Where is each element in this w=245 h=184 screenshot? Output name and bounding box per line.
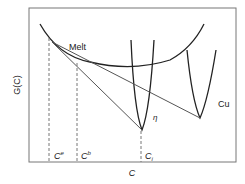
cu-label: Cu [218, 99, 230, 109]
melt-curve [40, 24, 204, 67]
tangent-cu [52, 42, 200, 118]
tangent-eta [52, 42, 142, 130]
cb-label: Cb [81, 150, 92, 161]
melt-label: Melt [69, 42, 87, 52]
ci-label: Ci [145, 151, 154, 162]
free-energy-diagram: Melt η Cu Ce Cb Ci C G(C) [0, 0, 245, 184]
ce-label: Ce [54, 150, 65, 161]
x-axis-label: C [129, 168, 136, 178]
y-axis-label: G(C) [12, 75, 22, 95]
cu-curve [187, 50, 216, 118]
plot-frame [29, 8, 236, 162]
eta-label: η [153, 113, 158, 122]
eta-curve [131, 40, 154, 130]
